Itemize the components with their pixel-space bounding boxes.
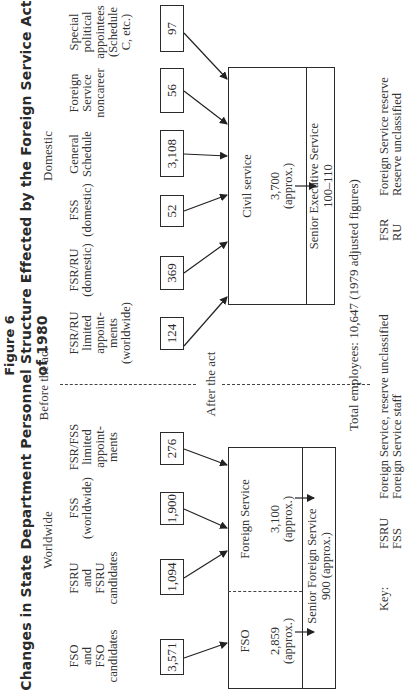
key-abbr-ru: RU bbox=[391, 224, 404, 241]
key-meaning-fss: Foreign Service staff bbox=[391, 394, 404, 499]
arrow-fss-worldwide bbox=[184, 509, 227, 528]
key-meaning-ru: Reserve unclassified bbox=[391, 93, 404, 196]
arrow-special-political bbox=[184, 33, 227, 79]
arrow-fsr-fss-limited bbox=[184, 449, 227, 465]
rotated-figure-page: Figure 6 Changes in State Department Per… bbox=[0, 0, 420, 691]
arrow-general-schedule bbox=[184, 154, 227, 156]
arrow-fsr-ru-limited bbox=[184, 297, 227, 346]
arrow-fs-noncareer bbox=[184, 91, 227, 124]
key-abbr-fss: FSS bbox=[391, 528, 404, 549]
total-employees: Total employees: 10,647 (1979 adjusted f… bbox=[346, 111, 362, 431]
arrow-fso bbox=[184, 643, 227, 658]
arrow-fss-domestic bbox=[184, 195, 227, 211]
key-heading: Key: bbox=[378, 587, 391, 611]
arrow-fsru bbox=[184, 551, 227, 578]
arrow-fsr-ru-domestic bbox=[184, 242, 227, 273]
